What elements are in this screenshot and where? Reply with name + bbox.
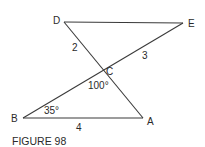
vertex-label-A: A bbox=[147, 116, 154, 127]
vertex-label-E: E bbox=[188, 18, 195, 29]
segment-EB bbox=[23, 23, 183, 118]
vertex-label-C: C bbox=[106, 66, 113, 77]
figure-caption: FIGURE 98 bbox=[12, 135, 66, 147]
angle-label-C: 100° bbox=[88, 80, 109, 91]
vertex-label-B: B bbox=[11, 113, 18, 124]
vertex-label-D: D bbox=[53, 15, 60, 26]
length-label-BA: 4 bbox=[76, 122, 82, 133]
length-label-CE: 3 bbox=[142, 50, 148, 61]
length-label-DC: 2 bbox=[72, 42, 78, 53]
segment-DE bbox=[64, 22, 183, 23]
geometry-figure: D E C B A 2 3 4 100° 35° FIGURE 98 bbox=[0, 0, 205, 147]
angle-label-B: 35° bbox=[44, 105, 59, 116]
